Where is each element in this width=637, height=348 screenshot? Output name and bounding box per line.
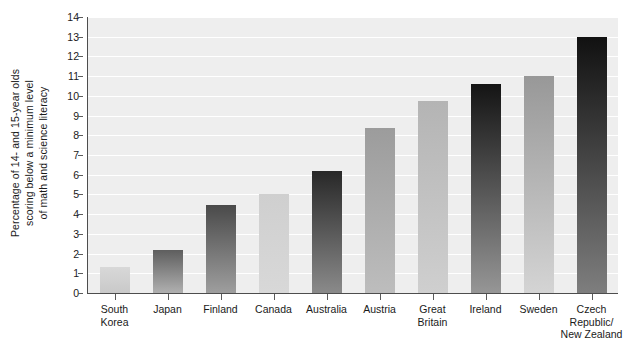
bar-finland [206,205,236,293]
x-axis-tick-label: Japan [153,303,182,316]
x-axis-tick-mark [433,294,434,300]
bar-chart-figure: Percentage of 14- and 15-year olds scori… [0,0,637,348]
y-axis-tick-mark [78,17,83,18]
bar-south-korea [100,267,130,293]
x-axis-tick-label: CzechRepublic/New Zealand [561,303,623,341]
gridline [88,56,618,57]
y-axis-tick-mark [78,214,83,215]
x-axis-tick-label-line: Sweden [520,303,558,316]
y-axis-title: Percentage of 14- and 15-year olds scori… [0,0,58,305]
y-axis-tick-mark [78,175,83,176]
x-axis-tick-mark [592,294,593,300]
y-axis-title-line-3: of math and science literacy [36,68,50,236]
y-axis-tick-mark [78,135,83,136]
bar-great-britain [418,101,448,293]
x-axis-tick-mark [115,294,116,300]
x-axis-tick-label-line: Republic/ [561,316,623,329]
x-axis-tick-mark [539,294,540,300]
y-axis-tick-mark [78,116,83,117]
x-axis-tick-label: Austria [363,303,396,316]
y-axis-tick-mark [78,56,83,57]
bar-canada [259,194,289,293]
y-axis-title-line-2: scoring below a minimum level [22,68,36,236]
x-axis-tick-label-line: Czech [561,303,623,316]
bar-australia [312,171,342,293]
x-axis-tick-label: GreatBritain [418,303,448,328]
bar-sweden [524,76,554,293]
x-axis-tick-label: Australia [306,303,347,316]
x-axis-tick-mark [168,294,169,300]
x-axis-tick-label-line: Australia [306,303,347,316]
y-axis-tick-mark [78,76,83,77]
gridline [88,17,618,18]
gridline [88,37,618,38]
x-axis-tick-label: Canada [255,303,292,316]
y-axis-title-text: Percentage of 14- and 15-year olds scori… [8,68,50,236]
bar-japan [153,250,183,293]
x-axis-tick-label-line: Austria [363,303,396,316]
x-axis-tick-label-line: Japan [153,303,182,316]
x-axis-tick-label: Finland [203,303,237,316]
y-axis-tick-mark [78,234,83,235]
y-axis-tick-mark [78,96,83,97]
x-axis-tick-label-line: New Zealand [561,328,623,341]
y-axis-title-line-1: Percentage of 14- and 15-year olds [8,68,22,236]
x-axis-tick-label-line: Great [418,303,448,316]
y-axis-tick-mark [78,293,83,294]
x-axis-tick-label-line: Korea [100,316,128,329]
x-axis-tick-mark [221,294,222,300]
x-axis-tick-label-line: Ireland [469,303,501,316]
x-axis-tick-label-line: Britain [418,316,448,329]
bar-austria [365,128,395,293]
x-axis-tick-mark [486,294,487,300]
y-axis-tick-mark [78,194,83,195]
x-axis-tick-mark [274,294,275,300]
x-axis-tick-mark [327,294,328,300]
bar-ireland [471,84,501,293]
x-axis-tick-label: SouthKorea [100,303,128,328]
y-axis-tick-mark [78,155,83,156]
y-axis-tick-mark [78,37,83,38]
y-axis-ticks: 01234567891011121314 [58,0,84,348]
x-axis-tick-label-line: Finland [203,303,237,316]
x-axis-tick-label-line: South [100,303,128,316]
x-axis-tick-label-line: Canada [255,303,292,316]
y-axis-tick-mark [78,273,83,274]
plot-area [88,17,618,293]
x-axis-tick-mark [380,294,381,300]
x-axis-tick-label: Sweden [520,303,558,316]
y-axis-tick-mark [78,254,83,255]
bar-czech-republic-new-zealand [577,37,607,293]
y-axis-line [87,17,88,294]
x-axis-tick-label: Ireland [469,303,501,316]
